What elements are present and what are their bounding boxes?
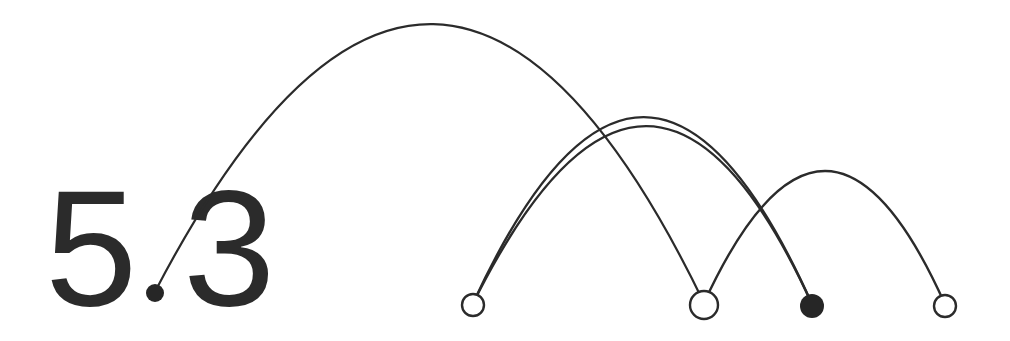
node-d-filled[interactable]	[800, 294, 824, 318]
figure-label-digit-right: 3	[183, 155, 275, 340]
node-e-open[interactable]	[934, 295, 956, 317]
arc-link-c-to-e	[704, 171, 945, 304]
arc-diagram-figure: 5 3	[0, 0, 1010, 341]
figure-label-digit-left: 5	[45, 155, 137, 340]
node-c-open[interactable]	[690, 291, 718, 319]
arc-link-b-to-d-inner	[473, 126, 812, 304]
arc-diagram-canvas: 5 3	[0, 0, 1010, 341]
node-a-filled-decimal-point[interactable]	[146, 284, 164, 302]
node-b-open[interactable]	[462, 294, 484, 316]
